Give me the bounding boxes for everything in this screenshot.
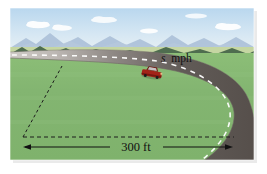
- speed-symbol: s: [161, 52, 166, 64]
- speed-label: s mph: [161, 52, 192, 65]
- radius-label: 300 ft: [121, 140, 151, 154]
- car-headlight: [160, 73, 162, 75]
- figure-container: 300 ft s mph: [0, 0, 267, 174]
- speed-units: mph: [171, 52, 192, 65]
- scene-group: 300 ft s mph: [10, 8, 256, 163]
- illustration-canvas: 300 ft s mph: [0, 0, 267, 174]
